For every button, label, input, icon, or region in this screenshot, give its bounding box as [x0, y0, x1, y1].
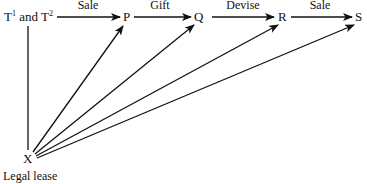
arrow-x-to-s — [37, 25, 354, 158]
edge-label-devise: Devise — [226, 0, 259, 12]
caption-legal-lease: Legal lease — [3, 169, 57, 183]
node-x: X — [23, 151, 33, 166]
node-q: Q — [194, 9, 204, 24]
title-chain-diagram: T1 and T2 Sale P Gift Q Devise R Sale S … — [0, 0, 367, 184]
node-r: R — [278, 9, 287, 24]
arrow-x-to-r — [36, 25, 278, 156]
node-t1-t2: T1 and T2 — [4, 9, 53, 24]
node-p: P — [123, 9, 130, 24]
edge-label-sale-2: Sale — [310, 0, 331, 12]
node-s: S — [355, 9, 362, 24]
arrow-x-to-q — [35, 25, 194, 154]
edge-label-gift: Gift — [150, 0, 170, 12]
edge-label-sale-1: Sale — [78, 0, 99, 12]
